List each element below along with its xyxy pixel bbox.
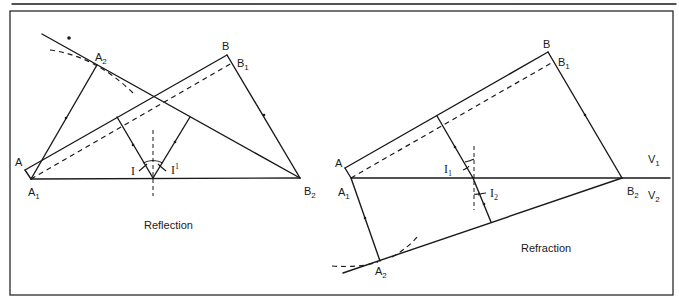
reflecting-surface <box>31 178 300 179</box>
ray-arrow-icon <box>454 146 457 149</box>
wavelet-arc-right <box>392 235 419 257</box>
label-A1: A1 <box>338 186 350 201</box>
refracted-wavefront-A2-B2 <box>343 178 622 273</box>
caption-refraction: Refraction <box>521 242 571 254</box>
label-angle-refraction: I2 <box>490 186 498 202</box>
edge-A-A1 <box>345 168 351 178</box>
ink-dot <box>67 36 71 40</box>
reflected-wavefront-A2-B2 <box>42 34 300 178</box>
wavefront-A1-B1-dashed <box>31 63 232 179</box>
label-A1: A1 <box>28 186 40 201</box>
ray-arrow-icon <box>263 114 266 117</box>
label-B1: B1 <box>237 57 249 72</box>
edge-A-A1 <box>25 170 31 179</box>
label-angle-incidence: I <box>131 164 135 178</box>
caption-reflection: Reflection <box>144 219 193 231</box>
label-B2: B2 <box>627 185 639 200</box>
refracted-ray-A1-A2 <box>351 178 380 261</box>
wavelet-arc-left <box>332 262 378 267</box>
incident-wavefront-AB <box>345 52 548 168</box>
ray-arrow-icon <box>364 217 367 220</box>
incident-wavefront-AB <box>25 55 227 170</box>
refracted-ray-middle <box>473 178 491 222</box>
ray-arrow-icon <box>483 203 486 206</box>
label-angle-reflection: I1 <box>171 162 179 177</box>
incident-ray-middle <box>117 117 153 178</box>
wavefront-A1-B1-dashed <box>351 62 553 178</box>
label-B1: B1 <box>558 56 570 71</box>
label-A: A <box>335 157 343 169</box>
label-B: B <box>543 38 550 50</box>
wavelet-arc-A2 <box>50 50 133 93</box>
label-angle-incidence: I1 <box>444 162 452 178</box>
angle-arc-incidence <box>139 164 147 171</box>
angle-arc-incidence <box>465 159 474 162</box>
refraction-panel: A A1 A2 B B1 B2 I1 I2 V1 V2 Refraction <box>332 38 670 280</box>
ray-arrow-icon <box>65 117 68 120</box>
wavefront-diagram: A A1 A2 B B1 B2 I I1 Reflection <box>0 0 679 303</box>
ray-arrow-icon <box>584 114 587 117</box>
label-B2: B2 <box>304 185 316 200</box>
label-A2: A2 <box>95 51 107 66</box>
reflected-ray-A1-A2 <box>31 65 97 179</box>
label-A2: A2 <box>375 265 387 280</box>
ray-B-B2 <box>227 55 300 178</box>
label-B: B <box>222 40 229 52</box>
reflection-panel: A A1 A2 B B1 B2 I I1 Reflection <box>15 34 316 231</box>
label-V1: V1 <box>648 153 660 168</box>
label-A: A <box>15 156 23 168</box>
figure-frame <box>10 11 673 295</box>
label-V2: V2 <box>648 189 660 204</box>
ray-arrow-icon <box>132 144 135 147</box>
ray-arrow-icon <box>174 141 177 144</box>
